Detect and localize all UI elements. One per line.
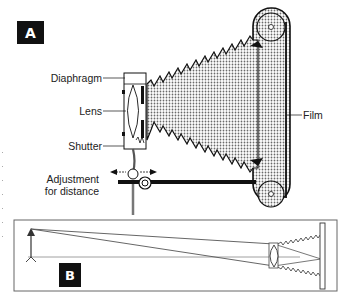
panel-a-camera xyxy=(103,8,302,215)
panel-a-badge: A xyxy=(17,21,44,44)
camera-diagram: A B Diaphragm Lens Shutter Adjustment fo… xyxy=(0,0,346,296)
label-lens: Lens xyxy=(79,105,102,117)
label-shutter: Shutter xyxy=(68,140,102,152)
label-adjustment-line2: for distance xyxy=(45,185,99,197)
label-adjustment-line1: Adjustment xyxy=(46,173,99,185)
label-film: Film xyxy=(303,109,323,121)
label-diaphragm: Diaphragm xyxy=(51,72,102,84)
film-plane xyxy=(320,223,325,289)
camera-diagram-graphics xyxy=(0,0,346,296)
left-edge-marks xyxy=(2,152,3,237)
panel-b-badge: B xyxy=(59,263,81,287)
bellows xyxy=(147,36,258,172)
